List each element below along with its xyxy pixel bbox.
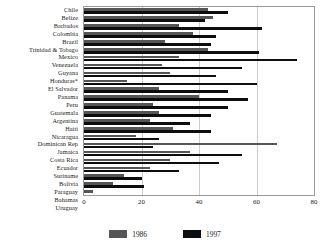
x-axis: 020406080 bbox=[83, 196, 315, 212]
category-label: Argentina bbox=[0, 117, 80, 125]
category-label: Panama bbox=[0, 93, 80, 101]
bar-1997 bbox=[84, 130, 211, 133]
bar-group bbox=[84, 39, 314, 47]
bar-group bbox=[84, 47, 314, 55]
bar-group bbox=[84, 141, 314, 149]
chart-legend: 19861997 bbox=[0, 226, 330, 242]
legend-label: 1997 bbox=[206, 230, 221, 239]
bar-1997 bbox=[84, 43, 211, 46]
bar-1997 bbox=[84, 19, 205, 22]
category-label: Chile bbox=[0, 6, 80, 14]
bar-group bbox=[84, 173, 314, 181]
bar-1997 bbox=[84, 51, 259, 54]
category-label: Costa Rica bbox=[0, 156, 80, 164]
x-tick-label: 60 bbox=[253, 198, 260, 205]
bar-1997 bbox=[84, 83, 257, 86]
category-label: Colombia bbox=[0, 30, 80, 38]
bar-group bbox=[84, 23, 314, 31]
bar-group bbox=[84, 78, 314, 86]
bar-group bbox=[84, 54, 314, 62]
bar-1997 bbox=[84, 106, 228, 109]
bar-group bbox=[84, 126, 314, 134]
bar-group bbox=[84, 189, 314, 196]
bar-group bbox=[84, 110, 314, 118]
category-label: Bahamas bbox=[0, 196, 80, 204]
category-label: Dominican Rep bbox=[0, 140, 80, 148]
category-label: Paraguay bbox=[0, 188, 80, 196]
category-label: Honduras* bbox=[0, 77, 80, 85]
category-label: Suriname bbox=[0, 172, 80, 180]
category-label: Bolivia bbox=[0, 180, 80, 188]
bar-1997 bbox=[84, 154, 242, 157]
category-label: Nicaragua bbox=[0, 133, 80, 141]
legend-entry[interactable]: 1986 bbox=[109, 230, 147, 239]
bar-1997 bbox=[84, 35, 216, 38]
bar-1997 bbox=[84, 114, 211, 117]
x-tick-label: 20 bbox=[138, 198, 145, 205]
bar-group bbox=[84, 31, 314, 39]
legend-entry[interactable]: 1997 bbox=[183, 230, 221, 239]
bar-1997 bbox=[84, 27, 262, 30]
category-label: Trinidad & Tobago bbox=[0, 46, 80, 54]
x-tick-label: 0 bbox=[82, 198, 85, 205]
bar-1997 bbox=[84, 98, 248, 101]
bar-group bbox=[84, 149, 314, 157]
category-label: Venezuela bbox=[0, 61, 80, 69]
horizontal-bar-chart: ChileBelizeBarbadosColombiaBrazilTrinida… bbox=[0, 0, 330, 247]
bar-1997 bbox=[84, 59, 297, 62]
bar-group bbox=[84, 86, 314, 94]
bar-group bbox=[84, 7, 314, 15]
bar-1997 bbox=[84, 90, 228, 93]
bar-group bbox=[84, 165, 314, 173]
category-label: Peru bbox=[0, 101, 80, 109]
category-label: Guatemala bbox=[0, 109, 80, 117]
bars-container bbox=[84, 7, 314, 195]
category-label: Mexico bbox=[0, 53, 80, 61]
category-label: Haiti bbox=[0, 125, 80, 133]
category-axis-labels: ChileBelizeBarbadosColombiaBrazilTrinida… bbox=[0, 6, 80, 196]
bar-1997 bbox=[84, 146, 153, 149]
bar-1997 bbox=[84, 185, 144, 188]
category-label: Uruguay bbox=[0, 204, 80, 212]
category-label: Jamaica bbox=[0, 148, 80, 156]
legend-swatch-icon bbox=[109, 230, 127, 238]
bar-1997 bbox=[84, 177, 142, 180]
bar-group bbox=[84, 15, 314, 23]
x-tick-label: 80 bbox=[311, 198, 318, 205]
bar-group bbox=[84, 181, 314, 189]
bar-group bbox=[84, 102, 314, 110]
bar-group bbox=[84, 157, 314, 165]
category-label: Ecuador bbox=[0, 164, 80, 172]
bar-1997 bbox=[84, 170, 179, 173]
bar-1997 bbox=[84, 67, 242, 70]
bar-1986 bbox=[84, 190, 93, 193]
category-label: Barbados bbox=[0, 22, 80, 30]
bar-group bbox=[84, 134, 314, 142]
bar-1997 bbox=[84, 122, 190, 125]
bar-group bbox=[84, 94, 314, 102]
category-label: El Salvador bbox=[0, 85, 80, 93]
legend-label: 1986 bbox=[132, 230, 147, 239]
bar-group bbox=[84, 118, 314, 126]
bar-group bbox=[84, 62, 314, 70]
legend-swatch-icon bbox=[183, 230, 201, 238]
bar-group bbox=[84, 70, 314, 78]
category-label: Belize bbox=[0, 14, 80, 22]
bar-1997 bbox=[84, 11, 228, 14]
bar-1997 bbox=[84, 138, 159, 141]
bar-1997 bbox=[84, 75, 216, 78]
category-label: Guyana bbox=[0, 69, 80, 77]
category-label: Brazil bbox=[0, 38, 80, 46]
bar-1997 bbox=[84, 162, 219, 165]
plot-area bbox=[83, 6, 315, 196]
x-tick-label: 40 bbox=[196, 198, 203, 205]
